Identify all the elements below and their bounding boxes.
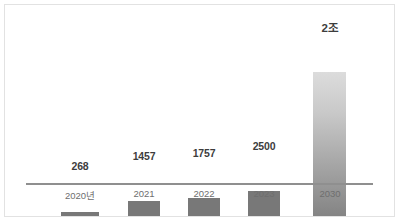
category-label-2030: 2030 bbox=[305, 188, 355, 199]
value-label-2023: 2500 bbox=[240, 140, 288, 152]
category-label-2023: 2023 bbox=[240, 188, 288, 199]
bar-2022 bbox=[188, 198, 220, 216]
x-axis-baseline bbox=[26, 183, 373, 185]
value-label-2020: 268 bbox=[61, 160, 99, 172]
category-label-2022: 2022 bbox=[180, 188, 228, 199]
value-label-2030: 2조 bbox=[305, 19, 355, 35]
bar-2020 bbox=[61, 212, 99, 216]
bar-2021 bbox=[128, 201, 160, 216]
value-label-2021: 1457 bbox=[120, 150, 168, 162]
value-label-2022: 1757 bbox=[180, 147, 228, 159]
category-label-2020: 2020년 bbox=[56, 188, 104, 202]
chart-frame: 268 1457 1757 2500 2조 2020년 2021 2022 20… bbox=[4, 4, 395, 217]
bar-chart-plot-area: 268 1457 1757 2500 2조 2020년 2021 2022 20… bbox=[5, 5, 394, 216]
category-label-2021: 2021 bbox=[120, 188, 168, 199]
